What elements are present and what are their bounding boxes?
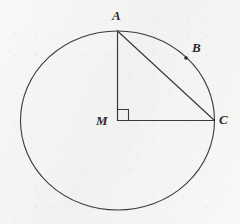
point-marker-B (184, 56, 188, 60)
point-label-C: C (219, 113, 228, 126)
geometry-figure: A B M C (0, 0, 240, 224)
geometry-canvas (0, 0, 240, 224)
right-angle-marker-M (118, 110, 129, 121)
point-label-B: B (192, 41, 201, 54)
point-label-A: A (112, 9, 121, 22)
point-label-M: M (96, 114, 108, 127)
